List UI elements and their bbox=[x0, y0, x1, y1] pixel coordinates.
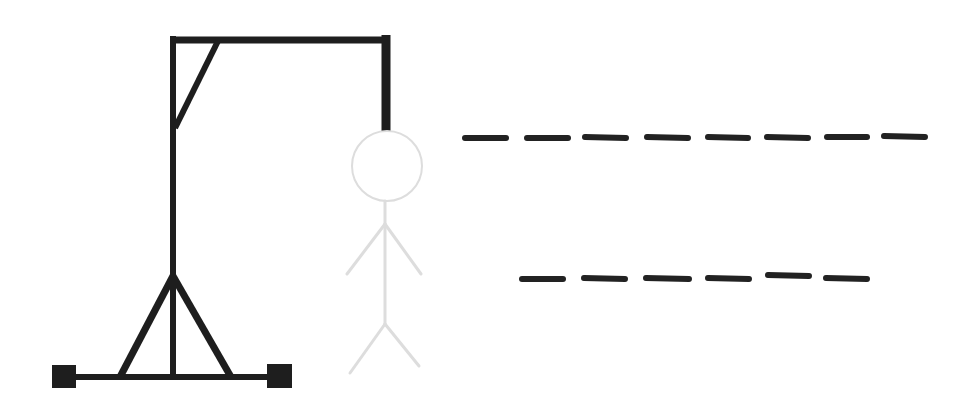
gallows-support-right bbox=[173, 276, 231, 377]
letter-blank bbox=[647, 137, 688, 138]
letter-blank bbox=[584, 278, 625, 279]
letter-blank bbox=[646, 278, 689, 279]
letter-blank bbox=[708, 137, 748, 138]
hangman-game: Hangman bbox=[0, 0, 977, 401]
figure-head bbox=[352, 131, 422, 201]
letter-blank bbox=[585, 137, 626, 138]
letter-blank bbox=[767, 137, 808, 138]
gallows-support-left bbox=[120, 276, 173, 377]
figure-arm-left bbox=[347, 224, 385, 274]
gallows-foot-left bbox=[52, 365, 76, 388]
gallows bbox=[52, 35, 390, 388]
word-row-2 bbox=[522, 275, 867, 279]
letter-blank bbox=[884, 136, 925, 137]
letter-blank bbox=[708, 278, 749, 279]
letter-blank bbox=[768, 275, 809, 276]
hangman-figure bbox=[347, 131, 422, 373]
hangman-canvas bbox=[0, 0, 977, 401]
figure-leg-left bbox=[350, 324, 385, 373]
figure-arm-right bbox=[385, 224, 421, 274]
gallows-brace bbox=[175, 41, 218, 128]
letter-blank bbox=[826, 278, 867, 279]
word-row-1 bbox=[465, 136, 925, 138]
figure-leg-right bbox=[385, 324, 419, 366]
gallows-foot-right bbox=[267, 364, 292, 388]
